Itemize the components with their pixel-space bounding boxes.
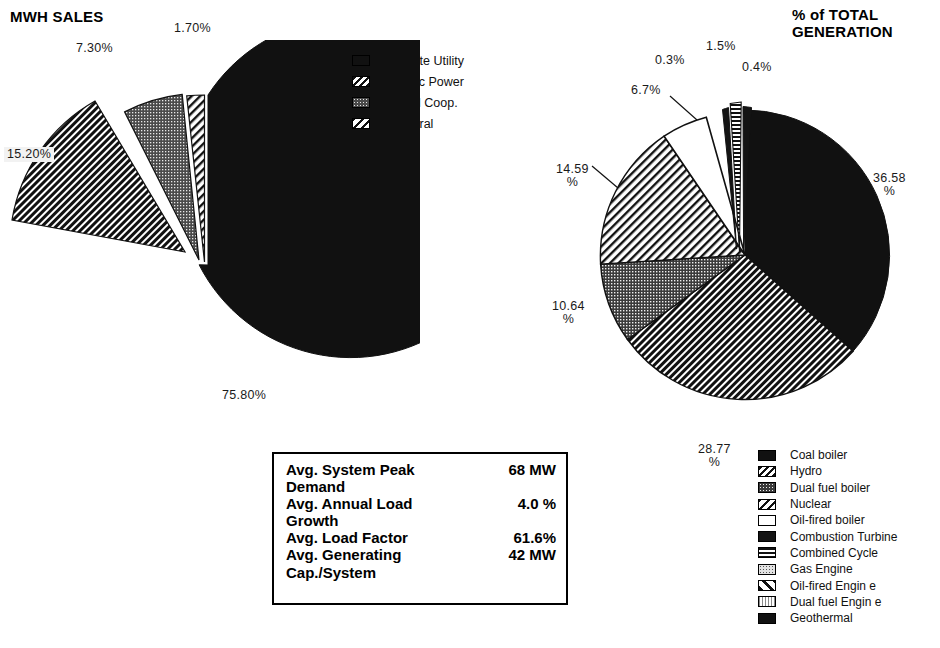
pct-label-federal: 1.70% — [174, 22, 211, 35]
pct-label-gas-engine: 0.4% — [742, 61, 772, 74]
table-row: Avg. Load Factor 61.6% — [274, 529, 566, 546]
legend-label-oil-fired-engine: Oil-fired Engin e — [790, 579, 876, 593]
stat-value-system-peak-demand: 68 MW — [486, 461, 556, 478]
legend-label-geothermal: Geothermal — [790, 611, 853, 625]
swatch-solid-black-icon — [352, 55, 370, 66]
legend-label-coal-boiler: Coal boiler — [790, 448, 847, 462]
legend-label-nuclear: Nuclear — [790, 497, 831, 511]
swatch-diagonal-hatch-dark-icon — [758, 466, 776, 477]
legend-item-nuclear[interactable]: Nuclear — [758, 496, 897, 512]
swatch-diagonal-hatch-light-icon — [758, 499, 776, 510]
legend-item-federal[interactable]: Federal — [352, 113, 464, 134]
swatch-horizontal-lines-icon — [758, 547, 776, 558]
pct-label-nuclear: 14.59 % — [556, 163, 589, 189]
legend-item-dual-fuel-engine[interactable]: Dual fuel Engin e — [758, 594, 897, 610]
table-row: Avg. Generating Cap./System 42 MW — [274, 546, 566, 580]
stat-label-system-peak-demand: Avg. System Peak Demand — [286, 461, 486, 495]
pct-label-oil-fired-boiler: 6.7% — [631, 84, 661, 97]
swatch-diagonal-hatch-dark-icon — [352, 76, 370, 87]
swatch-diagonal-hatch-light-icon — [352, 118, 370, 129]
legend-item-combustion-turbine[interactable]: Combustion Turbine — [758, 528, 897, 544]
legend-label-rural-coop: Rural Coop. — [391, 96, 458, 110]
table-row: Avg. System Peak Demand 68 MW — [274, 461, 566, 495]
legend-item-oil-fired-boiler[interactable]: Oil-fired boiler — [758, 512, 897, 528]
swatch-solid-black-icon — [758, 450, 776, 461]
swatch-white-icon — [758, 515, 776, 526]
summary-stats-table: Avg. System Peak Demand 68 MW Avg. Annua… — [272, 452, 568, 605]
legend-label-combined-cycle: Combined Cycle — [790, 546, 878, 560]
pct-label-public-power: 15.20% — [4, 147, 54, 162]
swatch-dotted-light-icon — [758, 564, 776, 575]
total-generation-pie-chart — [560, 40, 940, 450]
legend-item-hydro[interactable]: Hydro — [758, 463, 897, 479]
leader-line-nuclear — [592, 166, 618, 188]
table-row: Avg. Annual Load Growth 4.0 % — [274, 495, 566, 529]
swatch-dotted-gray-icon — [352, 97, 370, 108]
legend-item-public-power[interactable]: Public Power — [352, 71, 464, 92]
legend-label-federal: Federal — [391, 117, 433, 131]
stat-label-annual-load-growth: Avg. Annual Load Growth — [286, 495, 486, 529]
legend-label-dual-fuel-boiler: Dual fuel boiler — [790, 481, 870, 495]
legend-label-hydro: Hydro — [790, 464, 822, 478]
swatch-solid-black-icon — [758, 531, 776, 542]
pct-label-coal-boiler: 36.58 % — [873, 172, 906, 198]
swatch-diagonal-wide-icon — [758, 580, 776, 591]
leader-line-oil-fired-boiler — [670, 96, 697, 120]
right-chart-legend: Coal boiler Hydro Dual fuel boiler Nucle… — [758, 447, 897, 626]
legend-label-combustion-turbine: Combustion Turbine — [790, 530, 897, 544]
legend-label-public-power: Public Power — [391, 75, 464, 89]
legend-item-rural-coop[interactable]: Rural Coop. — [352, 92, 464, 113]
pct-label-combined-cycle: 1.5% — [706, 40, 736, 53]
stat-label-generating-capacity: Avg. Generating Cap./System — [286, 546, 486, 580]
legend-item-coal-boiler[interactable]: Coal boiler — [758, 447, 897, 463]
right-chart-title: % of TOTAL GENERATION — [792, 6, 893, 41]
pct-label-hydro: 28.77 % — [698, 443, 731, 469]
swatch-solid-black-icon — [758, 613, 776, 624]
legend-item-combined-cycle[interactable]: Combined Cycle — [758, 545, 897, 561]
legend-item-geothermal[interactable]: Geothermal — [758, 610, 897, 626]
left-chart-legend: Private Utility Public Power Rural Coop.… — [352, 50, 464, 134]
pct-label-combustion-turbine: 0.3% — [655, 54, 685, 67]
pct-label-rural-coop: 7.30% — [76, 42, 113, 55]
legend-item-private-utility[interactable]: Private Utility — [352, 50, 464, 71]
legend-item-gas-engine[interactable]: Gas Engine — [758, 561, 897, 577]
pct-label-private-utility: 75.80% — [222, 389, 266, 402]
swatch-dotted-dark-icon — [758, 482, 776, 493]
legend-label-gas-engine: Gas Engine — [790, 562, 853, 576]
legend-label-private-utility: Private Utility — [391, 54, 464, 68]
stat-label-load-factor: Avg. Load Factor — [286, 529, 486, 546]
legend-item-oil-fired-engine[interactable]: Oil-fired Engin e — [758, 577, 897, 593]
stat-value-annual-load-growth: 4.0 % — [486, 495, 556, 512]
legend-item-dual-fuel-boiler[interactable]: Dual fuel boiler — [758, 480, 897, 496]
legend-label-dual-fuel-engine: Dual fuel Engin e — [790, 595, 881, 609]
legend-label-oil-fired-boiler: Oil-fired boiler — [790, 513, 865, 527]
stat-value-generating-capacity: 42 MW — [486, 546, 556, 563]
pct-label-dual-fuel-boiler: 10.64 % — [552, 300, 585, 326]
swatch-vertical-fine-icon — [758, 596, 776, 607]
left-chart-title: MWH SALES — [10, 8, 103, 25]
stat-value-load-factor: 61.6% — [486, 529, 556, 546]
